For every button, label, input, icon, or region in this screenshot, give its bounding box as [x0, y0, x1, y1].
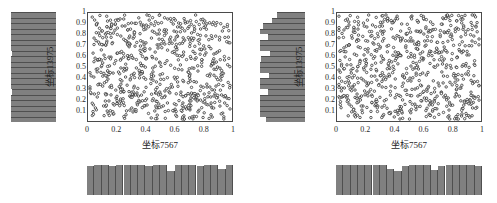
y-tick-label: 0.3	[315, 85, 335, 93]
histogram-bar	[87, 166, 94, 195]
histogram-bar	[266, 117, 305, 123]
scatter-points-left	[88, 13, 232, 121]
x-axis-label-right: 坐标7567	[336, 140, 482, 151]
x-axis-ticks-right: 00.20.40.60.81	[249, 125, 497, 137]
x-tick-label: 0.4	[384, 125, 404, 135]
y-axis-label-right: 坐标13975	[294, 47, 305, 88]
x-tick-label: 0.8	[443, 125, 463, 135]
histogram-bar	[402, 166, 409, 195]
marginal-histogram-x-left	[87, 165, 233, 195]
x-tick-label: 1	[472, 125, 492, 135]
histogram-bar	[467, 165, 474, 195]
histogram-bar	[11, 117, 56, 123]
histogram-bar	[260, 106, 305, 112]
histogram-bar	[167, 171, 174, 195]
histogram-bar	[160, 165, 167, 195]
scatter-panel-right: 0.10.20.30.40.50.60.70.80.91 00.20.40.60…	[249, 0, 497, 203]
histogram-bar	[365, 165, 372, 195]
histogram-bar	[197, 166, 204, 195]
x-tick-label: 0.8	[194, 125, 214, 135]
x-tick-label: 1	[223, 125, 243, 135]
x-tick-label: 0.6	[414, 125, 434, 135]
histogram-bar	[260, 111, 305, 117]
histogram-bar	[145, 166, 152, 195]
histogram-bar	[11, 34, 56, 40]
histogram-bar	[124, 165, 131, 195]
y-tick-label: 0.9	[315, 19, 335, 27]
histogram-bar	[343, 165, 350, 195]
scatter-panel-left: 0.10.20.30.40.50.60.70.80.91 00.20.40.60…	[0, 0, 248, 203]
y-tick-label: 1	[315, 8, 335, 16]
histogram-bar	[424, 165, 431, 195]
y-tick-label: 0.5	[315, 63, 335, 71]
x-tick-label: 0.4	[135, 125, 155, 135]
y-tick-label: 0.9	[66, 19, 86, 27]
x-tick-label: 0	[326, 125, 346, 135]
y-tick-label: 0.6	[315, 52, 335, 60]
y-tick-label: 0.3	[66, 85, 86, 93]
x-tick-label: 0.6	[165, 125, 185, 135]
y-tick-label: 0.7	[315, 41, 335, 49]
histogram-bar	[131, 165, 138, 195]
y-tick-label: 0.2	[66, 96, 86, 104]
histogram-bar	[358, 165, 365, 195]
y-axis-ticks-right: 0.10.20.30.40.50.60.70.80.91	[311, 0, 335, 203]
histogram-bar	[182, 165, 189, 195]
histogram-bar	[453, 165, 460, 195]
figure-canvas: 0.10.20.30.40.50.60.70.80.91 00.20.40.60…	[0, 0, 497, 203]
histogram-bar	[277, 12, 305, 18]
histogram-bar	[11, 111, 56, 117]
histogram-bar	[189, 165, 196, 195]
histogram-bar	[11, 106, 56, 112]
histogram-bar	[431, 170, 438, 195]
histogram-bar	[351, 165, 358, 195]
y-tick-label: 0.1	[66, 107, 86, 115]
histogram-bar	[336, 165, 343, 195]
y-axis-ticks-left: 0.10.20.30.40.50.60.70.80.91	[62, 0, 86, 203]
y-tick-label: 0.4	[315, 74, 335, 82]
histogram-bar	[387, 169, 394, 195]
histogram-bar	[460, 165, 467, 195]
y-axis-label-left: 坐标13975	[45, 47, 56, 88]
histogram-bar	[446, 165, 453, 195]
plot-area-right	[336, 12, 482, 122]
y-tick-label: 0.5	[66, 63, 86, 71]
histogram-bar	[175, 165, 182, 195]
x-axis-label-left: 坐标7567	[87, 140, 233, 151]
histogram-bar	[260, 40, 305, 46]
histogram-bar	[153, 165, 160, 195]
y-tick-label: 0.1	[315, 107, 335, 115]
y-tick-label: 0.2	[315, 96, 335, 104]
histogram-bar	[438, 166, 445, 195]
histogram-bar	[11, 12, 56, 18]
histogram-bar	[12, 89, 56, 95]
y-tick-label: 0.8	[66, 30, 86, 38]
histogram-bar	[116, 165, 123, 195]
histogram-bar	[11, 40, 56, 46]
histogram-bar	[268, 34, 305, 40]
marginal-histogram-x-right	[336, 165, 482, 195]
x-tick-label: 0	[77, 125, 97, 135]
histogram-bar	[11, 18, 56, 24]
histogram-bar	[409, 165, 416, 195]
x-tick-label: 0.2	[106, 125, 126, 135]
y-tick-label: 0.6	[66, 52, 86, 60]
histogram-bar	[204, 165, 211, 195]
histogram-bar	[102, 165, 109, 195]
histogram-bar	[260, 100, 305, 106]
histogram-bar	[94, 165, 101, 195]
histogram-bar	[226, 165, 233, 195]
histogram-bar	[211, 165, 218, 195]
y-tick-label: 0.7	[66, 41, 86, 49]
histogram-bar	[260, 95, 305, 101]
y-tick-label: 0.4	[66, 74, 86, 82]
histogram-bar	[11, 29, 56, 35]
histogram-bar	[109, 166, 116, 195]
histogram-bar	[380, 165, 387, 195]
histogram-bar	[272, 18, 305, 24]
scatter-points-right	[337, 13, 481, 121]
y-tick-label: 1	[66, 8, 86, 16]
histogram-bar	[268, 89, 305, 95]
plot-area-left	[87, 12, 233, 122]
y-tick-label: 0.8	[315, 30, 335, 38]
